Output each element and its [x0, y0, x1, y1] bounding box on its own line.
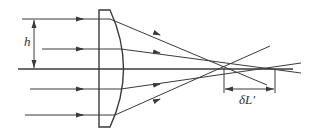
refracted-ray-bottom-inner [121, 63, 301, 89]
refracted-ray-top-outer [110, 19, 267, 85]
aberration-label: δL′ [239, 92, 255, 108]
lens-diagram [0, 0, 323, 135]
height-label: h [24, 34, 31, 50]
